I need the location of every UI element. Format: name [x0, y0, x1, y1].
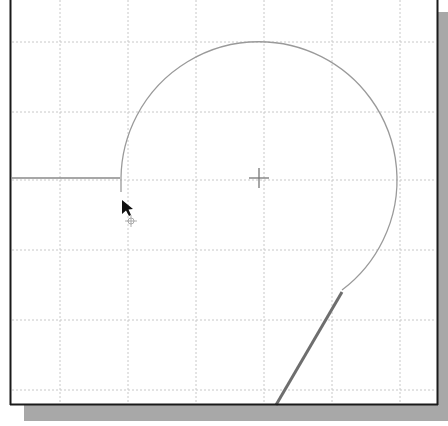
viewport-background[interactable]: [10, 0, 438, 405]
viewport-shadow-right: [438, 12, 448, 421]
cad-drawing-area[interactable]: [0, 0, 448, 426]
viewport-shadow: [24, 405, 448, 421]
